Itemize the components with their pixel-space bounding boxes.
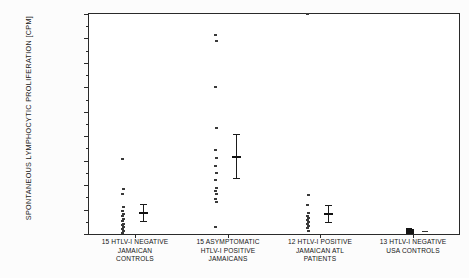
y-tick-major [84, 161, 89, 162]
mean-marker [422, 231, 428, 232]
data-point [214, 149, 217, 151]
data-point [214, 179, 217, 181]
y-tick-major [84, 63, 89, 64]
y-tick-minor [86, 222, 89, 223]
data-point [121, 232, 124, 234]
figure-scatter-plot: SPONTANEOUS LYMPHOCYTIC PROLIFERATION [C… [0, 0, 469, 278]
data-point [121, 210, 124, 212]
data-point [214, 198, 217, 200]
y-tick-major [84, 210, 89, 211]
x-axis-category-label: 12 HTLV-I POSITIVEJAMAICAN ATLPATIENTS [266, 238, 374, 264]
x-axis-category-line: 13 HTLV-I NEGATIVE [359, 238, 467, 247]
data-point [214, 34, 217, 36]
x-axis-category-line: JAMAICAN [81, 247, 189, 256]
error-bar-cap-lower [325, 222, 332, 223]
error-bar-cap-upper [233, 134, 240, 135]
plot-area: 0200004000060000800001000001200001400001… [88, 13, 460, 235]
y-tick-minor [86, 148, 89, 149]
data-point [406, 232, 410, 234]
y-tick-major [84, 112, 89, 113]
data-point [121, 193, 124, 195]
error-bar-cap-upper [140, 204, 147, 205]
y-tick-major [84, 234, 89, 235]
y-tick-major [84, 136, 89, 137]
data-point [214, 165, 217, 167]
error-bar-cap-lower [233, 178, 240, 179]
y-axis-title: SPONTANEOUS LYMPHOCYTIC PROLIFERATION [C… [24, 3, 34, 233]
data-point [122, 188, 125, 190]
x-axis-category-line: PATIENTS [266, 255, 374, 264]
y-tick-minor [86, 75, 89, 76]
data-point [215, 187, 218, 189]
y-tick-major [84, 14, 89, 15]
y-tick-major [84, 38, 89, 39]
y-tick-minor [86, 173, 89, 174]
data-point [307, 194, 310, 196]
y-tick-major [84, 185, 89, 186]
plot-inner: 0200004000060000800001000001200001400001… [89, 14, 459, 234]
y-tick-minor [86, 51, 89, 52]
y-axis-title-container: SPONTANEOUS LYMPHOCYTIC PROLIFERATION [C… [0, 0, 40, 250]
x-axis-category-label: 13 HTLV-I NEGATIVEUSA CONTROLS [359, 238, 467, 255]
y-tick-minor [86, 26, 89, 27]
mean-marker [324, 213, 333, 215]
data-point [215, 157, 218, 159]
x-axis-category-line: 12 HTLV-I POSITIVE [266, 238, 374, 247]
mean-marker [232, 156, 241, 158]
y-tick-major [84, 87, 89, 88]
data-point [215, 201, 218, 203]
data-point [215, 193, 218, 195]
data-point [122, 206, 125, 208]
mean-marker [139, 212, 148, 214]
error-bar-cap-lower [140, 221, 147, 222]
data-point [121, 158, 124, 160]
y-tick-minor [86, 197, 89, 198]
data-point [215, 172, 218, 174]
x-axis-category-line: JAMAICAN ATL [266, 247, 374, 256]
x-axis-category-line: USA CONTROLS [359, 247, 467, 256]
data-point [306, 204, 309, 206]
data-point [306, 13, 309, 15]
data-point [214, 226, 217, 228]
x-axis-category-line: 15 HTLV-I NEGATIVE [81, 238, 189, 247]
y-tick-minor [86, 124, 89, 125]
data-point [306, 227, 309, 229]
data-point [215, 127, 218, 129]
y-tick-minor [86, 100, 89, 101]
data-point [215, 40, 218, 42]
error-bar-cap-upper [325, 205, 332, 206]
x-axis-category-label: 15 HTLV-I NEGATIVEJAMAICANCONTROLS [81, 238, 189, 264]
x-axis-category-line: CONTROLS [81, 255, 189, 264]
data-point [307, 230, 310, 232]
data-point [214, 86, 217, 88]
